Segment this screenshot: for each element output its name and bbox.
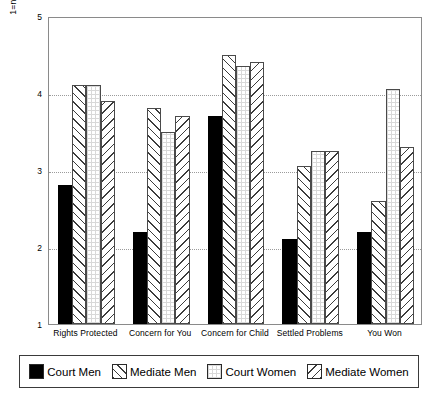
x-axis-tick-label: Settled Problems — [272, 328, 347, 338]
legend-item: Court Men — [29, 364, 101, 379]
legend-swatch-icon — [112, 364, 127, 379]
chart-legend: Court MenMediate MenCourt WomenMediate W… — [19, 355, 419, 388]
plot-inner — [49, 18, 421, 324]
legend-label: Court Men — [47, 366, 101, 378]
bar-group — [199, 18, 274, 324]
bar — [236, 66, 250, 324]
legend-item: Mediate Men — [112, 364, 196, 379]
y-axis-tick-2: 2 — [26, 244, 42, 252]
y-axis-tick-1: 1 — [26, 321, 42, 329]
legend-swatch-icon — [207, 364, 222, 379]
bar — [325, 151, 339, 324]
bar — [357, 232, 371, 324]
bar — [161, 132, 175, 325]
legend-item: Mediate Women — [307, 364, 409, 379]
legend-swatch-icon — [307, 364, 322, 379]
y-axis-label: 1=not at all; 2=a little; 3=somewhat; 4=… — [6, 0, 20, 45]
bar — [208, 116, 222, 324]
bar — [175, 116, 189, 324]
bar — [386, 89, 400, 324]
bar-group — [348, 18, 423, 324]
plot-area — [48, 17, 422, 325]
bar — [133, 232, 147, 324]
legend-swatch-icon — [29, 364, 44, 379]
bar — [72, 85, 86, 324]
bar — [58, 185, 72, 324]
bar — [101, 101, 115, 324]
bar-group — [49, 18, 124, 324]
bar — [282, 239, 296, 324]
legend-label: Mediate Women — [325, 366, 409, 378]
legend-item: Court Women — [207, 364, 296, 379]
bar — [250, 62, 264, 324]
bar-group — [273, 18, 348, 324]
bar — [371, 201, 385, 324]
x-axis-tick-label: Concern for You — [123, 328, 198, 338]
bar — [86, 85, 100, 324]
legend-label: Mediate Men — [130, 366, 196, 378]
y-axis-tick-4: 4 — [26, 90, 42, 98]
bar — [147, 108, 161, 324]
y-axis-tick-5: 5 — [26, 13, 42, 21]
bar-chart-figure: 1=not at all; 2=a little; 3=somewhat; 4=… — [0, 0, 437, 405]
x-axis-tick-label: You Won — [347, 328, 422, 338]
bar — [311, 151, 325, 324]
bar — [222, 55, 236, 325]
y-axis-tick-3: 3 — [26, 167, 42, 175]
x-axis-tick-label: Concern for Child — [198, 328, 273, 338]
legend-label: Court Women — [225, 366, 296, 378]
x-axis-tick-label: Rights Protected — [48, 328, 123, 338]
bar — [400, 147, 414, 324]
bar — [297, 166, 311, 324]
bar-group — [124, 18, 199, 324]
